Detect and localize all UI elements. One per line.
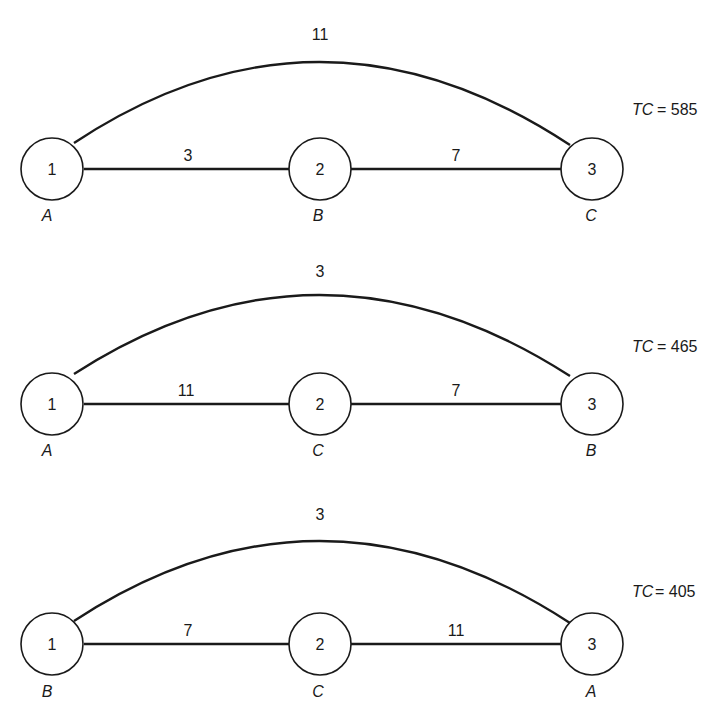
edge-2-3-weight: 7 <box>452 147 461 164</box>
tc-label: TC <box>632 338 654 355</box>
tc-label: TC <box>632 583 654 600</box>
node-2-letter: B <box>313 207 324 224</box>
node-3-letter: C <box>585 207 597 224</box>
node-2-letter: C <box>312 442 324 459</box>
node-2-number: 2 <box>316 396 325 413</box>
tc-value: = 465 <box>657 338 698 355</box>
edge-2-3-weight: 7 <box>452 382 461 399</box>
node-1-number: 1 <box>48 161 57 178</box>
node-3-letter: A <box>585 683 597 700</box>
node-3-number: 3 <box>588 636 597 653</box>
node-2-number: 2 <box>316 636 325 653</box>
node-2-letter: C <box>312 683 324 700</box>
node-1-letter: A <box>41 442 53 459</box>
node-1-letter: B <box>42 683 53 700</box>
node-1-number: 1 <box>48 636 57 653</box>
edge-1-2-weight: 7 <box>184 622 193 639</box>
node-3-number: 3 <box>588 396 597 413</box>
tc-value: = 585 <box>657 101 698 118</box>
edge-1-2-weight: 11 <box>178 382 195 399</box>
layout-diagrams: 1 2 3 A B C 3 7 11 TC = 585 1 2 3 A C B … <box>0 0 722 718</box>
arc-weight: 3 <box>316 263 325 280</box>
tc-label: TC <box>632 101 654 118</box>
arc-weight: 11 <box>312 26 329 43</box>
node-3-letter: B <box>586 442 597 459</box>
diagram-3: 1 2 3 B C A 7 11 3 TC = 405 <box>21 506 696 700</box>
node-1-number: 1 <box>48 396 57 413</box>
diagram-1: 1 2 3 A B C 3 7 11 TC = 585 <box>21 26 698 224</box>
node-1-letter: A <box>41 207 53 224</box>
diagram-2: 1 2 3 A C B 11 7 3 TC = 465 <box>21 263 698 459</box>
tc-value: = 405 <box>655 583 696 600</box>
edge-1-2-weight: 3 <box>184 147 193 164</box>
arc-edge-1-3 <box>74 62 570 145</box>
arc-edge-1-3 <box>74 295 570 376</box>
node-2-number: 2 <box>316 161 325 178</box>
arc-edge-1-3 <box>74 541 570 623</box>
edge-2-3-weight: 11 <box>448 622 465 639</box>
arc-weight: 3 <box>316 506 325 523</box>
node-3-number: 3 <box>588 161 597 178</box>
